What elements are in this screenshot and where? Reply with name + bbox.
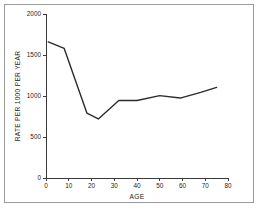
x-tick-label: 40: [133, 182, 141, 189]
x-axis-title: AGE: [130, 193, 145, 200]
x-tick-label: 30: [111, 182, 119, 189]
y-axis-title: RATE PER 1000 PER YEAR: [14, 51, 21, 142]
x-tick-label: 0: [44, 182, 48, 189]
y-tick-label: 1500: [27, 51, 42, 58]
x-tick-label: 80: [224, 182, 232, 189]
chart-figure: 050010001500200001020304050607080AGERATE…: [0, 0, 260, 211]
x-tick-label: 60: [179, 182, 187, 189]
data-series-line: [48, 42, 216, 119]
y-tick-label: 2000: [27, 10, 42, 17]
x-tick-label: 50: [156, 182, 164, 189]
line-chart: 050010001500200001020304050607080AGERATE…: [0, 0, 260, 211]
x-tick-label: 70: [202, 182, 210, 189]
x-tick-label: 20: [88, 182, 96, 189]
y-tick-label: 0: [37, 174, 41, 181]
y-tick-label: 500: [30, 133, 41, 140]
y-tick-label: 1000: [27, 92, 42, 99]
x-tick-label: 10: [65, 182, 73, 189]
